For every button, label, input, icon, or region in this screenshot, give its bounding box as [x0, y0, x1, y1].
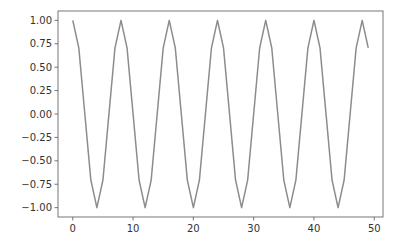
x-tick-label: 30	[247, 223, 260, 234]
series-line	[73, 20, 368, 207]
y-tick-label: 1.00	[30, 15, 52, 26]
x-axis: 01020304050	[70, 217, 381, 234]
x-tick-label: 20	[187, 223, 200, 234]
axes-frame	[58, 11, 383, 217]
y-tick-label: 0.50	[30, 62, 52, 73]
x-tick-label: 0	[70, 223, 76, 234]
y-tick-label: −0.50	[21, 155, 52, 166]
y-tick-label: 0.25	[30, 85, 52, 96]
y-tick-label: −0.25	[21, 132, 52, 143]
y-axis: 1.000.750.500.250.00−0.25−0.50−0.75−1.00	[21, 15, 58, 213]
y-tick-label: −1.00	[21, 202, 52, 213]
y-tick-label: 0.75	[30, 38, 52, 49]
plot-area	[73, 20, 368, 207]
axes-border	[58, 11, 383, 217]
x-tick-label: 10	[127, 223, 140, 234]
y-tick-label: −0.75	[21, 179, 52, 190]
x-tick-label: 50	[368, 223, 381, 234]
y-tick-label: 0.00	[30, 109, 52, 120]
x-tick-label: 40	[308, 223, 321, 234]
line-chart: 01020304050 1.000.750.500.250.00−0.25−0.…	[0, 0, 406, 249]
